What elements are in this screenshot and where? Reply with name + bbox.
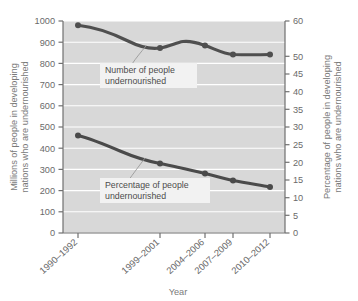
left-tick-0: 0 <box>50 228 55 238</box>
right-axis-title-line2: nations who are undernourished <box>333 61 343 192</box>
right-tick-40: 40 <box>293 87 303 97</box>
annotation-number-line2: undernourished <box>105 76 166 86</box>
x-axis-title: Year <box>169 287 188 297</box>
right-tick-15: 15 <box>293 175 303 185</box>
right-axis: 0 5 10 15 20 25 30 35 40 45 50 60 Percen… <box>285 16 343 238</box>
left-tick-800: 800 <box>40 59 55 69</box>
annotation-percentage-line2: undernourished <box>105 191 166 201</box>
x-tick-label-4: 2010–2012 <box>229 236 271 276</box>
right-tick-20: 20 <box>293 158 303 168</box>
left-tick-1000: 1000 <box>35 16 55 26</box>
right-tick-30: 30 <box>293 122 303 132</box>
right-tick-60: 60 <box>293 16 303 26</box>
chart-figure: 0 100 200 300 400 500 600 700 800 900 10… <box>0 0 358 301</box>
annotation-number-line1: Number of people <box>105 65 175 75</box>
left-tick-300: 300 <box>40 165 55 175</box>
x-tick-label-1: 1999–2001 <box>119 236 161 276</box>
left-axis-title-line2: nations who are undernourished <box>20 61 30 192</box>
right-tick-25: 25 <box>293 140 303 150</box>
left-tick-200: 200 <box>40 186 55 196</box>
x-tick-label-0: 1990–1992 <box>37 236 79 276</box>
left-tick-100: 100 <box>40 207 55 217</box>
left-tick-900: 900 <box>40 38 55 48</box>
annotation-percentage-line1: Percentage of people <box>105 180 189 190</box>
left-tick-400: 400 <box>40 144 55 154</box>
right-tick-10: 10 <box>293 193 303 203</box>
right-tick-45: 45 <box>293 69 303 79</box>
right-tick-35: 35 <box>293 105 303 115</box>
right-tick-0: 0 <box>293 228 298 238</box>
right-axis-title-line1: Percentage of people in developing <box>322 55 332 199</box>
left-tick-500: 500 <box>40 122 55 132</box>
left-axis: 0 100 200 300 400 500 600 700 800 900 10… <box>9 16 63 238</box>
left-tick-600: 600 <box>40 101 55 111</box>
undernourishment-line-chart: 0 100 200 300 400 500 600 700 800 900 10… <box>0 0 358 301</box>
x-axis: 1990–1992 1999–2001 2004–2006 2007–2009 … <box>37 233 285 297</box>
right-tick-5: 5 <box>293 211 298 221</box>
left-axis-title-line1: Millions of people in developing <box>9 63 19 191</box>
right-tick-50: 50 <box>293 52 303 62</box>
left-tick-700: 700 <box>40 80 55 90</box>
